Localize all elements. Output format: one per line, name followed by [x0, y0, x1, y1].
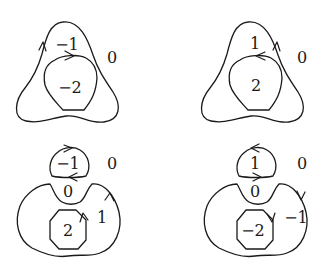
- label-notch-region: 0: [250, 182, 260, 201]
- label-cap-region: −1: [56, 154, 80, 173]
- label-cap-region: 1: [250, 154, 260, 173]
- panel-top-left: −1 −2 0: [16, 22, 118, 122]
- label-inner-region: −2: [58, 78, 82, 97]
- label-exterior: 0: [107, 154, 117, 173]
- label-inner-region: 2: [251, 76, 261, 95]
- label-exterior: 0: [297, 154, 307, 173]
- label-notch-region: 0: [63, 182, 73, 201]
- winding-number-diagram: −1 −2 0 1 2 0 −1 0 1 2 0 1 0 −1 −2: [0, 0, 323, 269]
- panel-bottom-left: −1 0 1 2 0: [17, 145, 120, 257]
- label-exterior: 0: [107, 48, 117, 67]
- outer-arrow-icon: [105, 193, 114, 201]
- label-inner-region: 2: [63, 221, 73, 240]
- label-exterior: 0: [297, 48, 307, 67]
- label-outer-region: 1: [250, 34, 260, 53]
- label-outer-region: −1: [284, 208, 308, 227]
- label-outer-region: 1: [97, 208, 107, 227]
- label-inner-region: −2: [241, 221, 265, 240]
- label-outer-region: −1: [55, 35, 79, 54]
